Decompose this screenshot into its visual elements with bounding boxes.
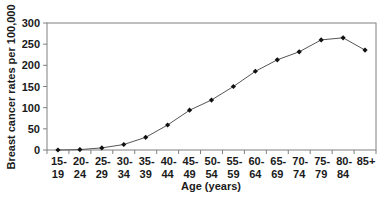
x-tick-label: 29 (96, 168, 108, 180)
x-tick-label: 69 (271, 168, 283, 180)
x-tick-label: 75- (314, 155, 330, 167)
x-tick-label: 30- (117, 155, 133, 167)
x-tick-label: 60- (248, 155, 264, 167)
x-tick-label: 79 (315, 168, 327, 180)
x-tick-label: 50- (205, 155, 221, 167)
y-tick-label: 300 (22, 17, 40, 29)
x-tick-label: 35- (139, 155, 155, 167)
x-tick-label: 59 (227, 168, 239, 180)
x-tick-label: 24 (74, 168, 87, 180)
x-tick-label: 55- (226, 155, 242, 167)
x-tick-label: 40- (161, 155, 177, 167)
line-chart: 050100150200250300 15-1920-2425-2930-343… (0, 0, 387, 203)
x-tick-label: 84 (337, 168, 350, 180)
y-tick-label: 100 (22, 102, 40, 114)
y-tick-label: 200 (22, 59, 40, 71)
x-tick-label: 54 (205, 168, 218, 180)
x-tick-label: 70- (292, 155, 308, 167)
y-tick-label: 250 (22, 38, 40, 50)
x-tick-label: 20- (73, 155, 89, 167)
x-tick-label: 80- (336, 155, 352, 167)
y-tick-label: 0 (34, 144, 40, 156)
x-tick-label: 15- (51, 155, 67, 167)
x-tick-label: 44 (162, 168, 175, 180)
x-tick-label: 64 (249, 168, 262, 180)
x-tick-label: 34 (118, 168, 131, 180)
y-tick-label: 50 (28, 123, 40, 135)
y-tick-label: 150 (22, 81, 40, 93)
x-tick-label: 49 (183, 168, 195, 180)
y-axis: 050100150200250300 (22, 17, 47, 156)
x-tick-label: 39 (140, 168, 152, 180)
y-axis-title: Breast cancer rates per 100,000 (5, 4, 17, 169)
x-axis-title: Age (years) (181, 180, 241, 192)
x-tick-label: 65- (270, 155, 286, 167)
x-tick-label: 25- (95, 155, 111, 167)
x-tick-label: 85+ (357, 155, 376, 167)
x-tick-label: 19 (52, 168, 64, 180)
plot-area (47, 23, 376, 150)
x-tick-label: 74 (293, 168, 306, 180)
x-tick-label: 45- (183, 155, 199, 167)
x-axis: 15-1920-2425-2930-3435-3940-4445-4950-54… (47, 150, 376, 180)
